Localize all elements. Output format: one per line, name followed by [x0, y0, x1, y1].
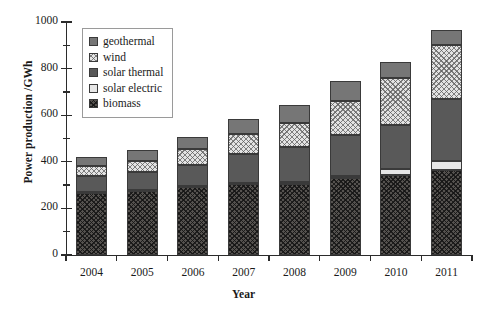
- segment-geothermal-2011[interactable]: [431, 30, 462, 45]
- y-axis-title: Power production /GWh: [22, 27, 34, 217]
- x-tick: [319, 255, 320, 261]
- segment-biomass-2008[interactable]: [279, 184, 310, 255]
- segment-geothermal-2006[interactable]: [177, 137, 208, 149]
- x-tick: [65, 255, 66, 261]
- segment-solar-electric-2010[interactable]: [380, 169, 411, 175]
- x-tick-label: 2009: [318, 266, 372, 278]
- y-minor-tick-700: [63, 91, 70, 92]
- legend-item-biomass[interactable]: biomass: [89, 96, 163, 112]
- y-tick-label: 400: [12, 154, 58, 166]
- segment-geothermal-2008[interactable]: [279, 105, 310, 123]
- segment-wind-2009[interactable]: [330, 101, 361, 135]
- legend-label: biomass: [103, 98, 141, 110]
- x-tick-label: 2005: [115, 266, 169, 278]
- legend-swatch-icon: [89, 99, 98, 108]
- segment-wind-2007[interactable]: [228, 134, 259, 154]
- legend-item-solar-electric[interactable]: solar electric: [89, 81, 163, 97]
- segment-biomass-2004[interactable]: [76, 193, 107, 255]
- legend-label: geothermal: [103, 36, 155, 48]
- y-tick-800: [61, 68, 72, 69]
- legend-swatch-icon: [89, 84, 98, 93]
- y-minor-tick-900: [63, 45, 70, 46]
- segment-biomass-2009[interactable]: [330, 178, 361, 255]
- legend-item-wind[interactable]: wind: [89, 50, 163, 66]
- x-tick: [370, 255, 371, 261]
- segment-biomass-2006[interactable]: [177, 187, 208, 255]
- segment-solar-thermal-2008[interactable]: [279, 147, 310, 182]
- y-tick-400: [61, 161, 72, 162]
- segment-solar-electric-2009[interactable]: [330, 176, 361, 178]
- x-tick-label: 2008: [267, 266, 321, 278]
- segment-solar-thermal-2011[interactable]: [431, 99, 462, 161]
- legend-swatch-icon: [89, 53, 98, 62]
- legend-swatch-icon: [89, 68, 98, 77]
- segment-solar-thermal-2004[interactable]: [76, 176, 107, 192]
- x-tick: [116, 255, 117, 261]
- power-production-stacked-bar-chart: Power production /GWh Year 0200400600800…: [0, 0, 487, 312]
- legend-label: solar thermal: [103, 67, 163, 79]
- x-tick: [218, 255, 219, 261]
- segment-biomass-2005[interactable]: [127, 191, 158, 255]
- legend-item-solar-thermal[interactable]: solar thermal: [89, 65, 163, 81]
- segment-biomass-2010[interactable]: [380, 175, 411, 255]
- segment-wind-2011[interactable]: [431, 45, 462, 99]
- x-tick: [167, 255, 168, 261]
- x-tick: [268, 255, 269, 261]
- y-tick-label: 600: [12, 107, 58, 119]
- legend-item-geothermal[interactable]: geothermal: [89, 34, 163, 50]
- segment-solar-thermal-2007[interactable]: [228, 154, 259, 183]
- segment-geothermal-2005[interactable]: [127, 150, 158, 160]
- segment-solar-thermal-2010[interactable]: [380, 125, 411, 169]
- y-tick-label: 200: [12, 200, 58, 212]
- segment-wind-2005[interactable]: [127, 161, 158, 173]
- y-minor-tick-100: [63, 231, 70, 232]
- x-tick-label: 2004: [64, 266, 118, 278]
- segment-solar-electric-2008[interactable]: [279, 182, 310, 184]
- segment-geothermal-2010[interactable]: [380, 62, 411, 78]
- x-tick-label: 2011: [420, 266, 474, 278]
- legend-swatch-icon: [89, 37, 98, 46]
- x-tick-label: 2006: [166, 266, 220, 278]
- y-minor-tick-500: [63, 138, 70, 139]
- segment-wind-2010[interactable]: [380, 78, 411, 125]
- x-tick-label: 2007: [217, 266, 271, 278]
- legend-label: solar electric: [103, 83, 162, 95]
- y-tick-label: 1000: [12, 14, 58, 26]
- segment-geothermal-2007[interactable]: [228, 119, 259, 134]
- y-tick-1000: [61, 21, 72, 22]
- x-axis-title: Year: [0, 288, 487, 300]
- segment-wind-2004[interactable]: [76, 166, 107, 175]
- segment-solar-thermal-2006[interactable]: [177, 165, 208, 186]
- x-tick-label: 2010: [369, 266, 423, 278]
- y-tick-200: [61, 208, 72, 209]
- y-minor-tick-300: [63, 184, 70, 185]
- segment-biomass-2011[interactable]: [431, 170, 462, 255]
- y-tick-600: [61, 115, 72, 116]
- segment-wind-2008[interactable]: [279, 123, 310, 147]
- bar-2006[interactable]: [177, 22, 208, 255]
- x-tick: [471, 255, 472, 261]
- segment-wind-2006[interactable]: [177, 149, 208, 165]
- segment-geothermal-2004[interactable]: [76, 157, 107, 166]
- bar-2008[interactable]: [279, 22, 310, 255]
- chart-legend: geothermalwindsolar thermalsolar electri…: [82, 28, 173, 118]
- legend-label: wind: [103, 52, 126, 64]
- segment-biomass-2007[interactable]: [228, 184, 259, 255]
- bar-2011[interactable]: [431, 22, 462, 255]
- bar-2007[interactable]: [228, 22, 259, 255]
- bar-2010[interactable]: [380, 22, 411, 255]
- segment-geothermal-2009[interactable]: [330, 81, 361, 101]
- bar-2009[interactable]: [330, 22, 361, 255]
- segment-solar-electric-2011[interactable]: [431, 161, 462, 170]
- segment-solar-thermal-2009[interactable]: [330, 135, 361, 176]
- segment-solar-thermal-2005[interactable]: [127, 172, 158, 189]
- y-tick-label: 0: [12, 247, 58, 259]
- y-tick-label: 800: [12, 61, 58, 73]
- x-tick: [421, 255, 422, 261]
